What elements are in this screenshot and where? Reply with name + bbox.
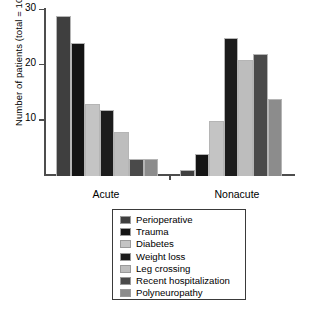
bar-nonacute-leg-crossing [238, 60, 253, 176]
legend-swatch-icon [120, 289, 131, 297]
legend-label: Diabetes [136, 239, 174, 249]
bar-acute-recent-hospitalization [129, 159, 144, 176]
legend-swatch-icon [120, 228, 131, 236]
legend-item-diabetes: Diabetes [120, 238, 245, 250]
legend-label: Recent hospitalization [136, 276, 230, 286]
y-axis-tick-30: 30 [39, 9, 44, 11]
bar-nonacute-polyneuropathy [268, 99, 283, 176]
bar-nonacute-perioperative [180, 170, 195, 176]
bar-acute-trauma [71, 43, 86, 176]
legend-swatch-icon [120, 253, 131, 261]
y-axis-line [44, 8, 46, 175]
legend-swatch-icon [120, 277, 131, 285]
legend-item-polyneuropathy: Polyneuropathy [120, 287, 245, 299]
chart-legend: PerioperativeTraumaDiabetesWeight lossLe… [112, 209, 246, 300]
bar-acute-polyneuropathy [144, 159, 159, 176]
bar-nonacute-weight-loss [224, 38, 239, 176]
legend-label: Trauma [136, 227, 169, 237]
legend-swatch-icon [120, 216, 131, 224]
group-label-nonacute: Nonacute [194, 188, 280, 200]
bar-acute-diabetes [85, 104, 100, 176]
legend-item-leg-crossing: Leg crossing [120, 263, 245, 275]
x-axis-group-tick [169, 175, 171, 180]
y-axis-label: Number of patients (total = 103) [13, 0, 24, 138]
legend-label: Leg crossing [136, 264, 190, 274]
bar-chart-figure: Number of patients (total = 103) 102030 … [0, 0, 312, 313]
bar-acute-weight-loss [100, 110, 115, 176]
legend-item-weight-loss: Weight loss [120, 251, 245, 263]
y-axis-tick-label-20: 20 [25, 57, 36, 68]
legend-swatch-icon [120, 265, 131, 273]
legend-item-perioperative: Perioperative [120, 214, 245, 226]
y-axis-tick-10: 10 [39, 119, 44, 121]
group-label-acute: Acute [68, 188, 144, 200]
bar-acute-leg-crossing [114, 132, 129, 176]
bar-nonacute-trauma [195, 154, 210, 176]
legend-label: Perioperative [136, 215, 193, 225]
legend-swatch-icon [120, 240, 131, 248]
legend-item-recent-hospitalization: Recent hospitalization [120, 275, 245, 287]
bar-nonacute-diabetes [209, 121, 224, 176]
y-axis-tick-20: 20 [39, 64, 44, 66]
bar-acute-perioperative [56, 16, 71, 176]
plot-area: 102030 Acute Nonacute [44, 8, 296, 176]
legend-item-trauma: Trauma [120, 226, 245, 238]
y-axis-tick-label-10: 10 [25, 112, 36, 123]
legend-label: Weight loss [136, 252, 185, 262]
bar-nonacute-recent-hospitalization [253, 54, 268, 176]
legend-label: Polyneuropathy [136, 288, 203, 298]
y-axis-tick-label-30: 30 [25, 2, 36, 13]
